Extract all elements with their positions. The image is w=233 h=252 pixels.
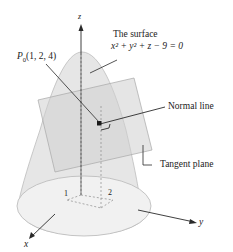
x-axis-label: x bbox=[24, 240, 28, 250]
z-axis-label: z bbox=[78, 13, 81, 21]
surface-label: The surface bbox=[113, 30, 158, 40]
point-p0-marker bbox=[97, 121, 102, 126]
point-coords: (1, 2, 4) bbox=[26, 51, 56, 61]
point-p0-label: P0(1, 2, 4) bbox=[17, 52, 56, 63]
x-tick-label: 1 bbox=[64, 190, 68, 198]
y-axis-label: y bbox=[199, 218, 203, 228]
y-tick-label: 2 bbox=[108, 189, 112, 197]
tangent-plane-label: Tangent plane bbox=[160, 160, 213, 170]
normal-line-label: Normal line bbox=[168, 102, 214, 112]
surface-equation: x² + y² + z − 9 = 0 bbox=[111, 42, 183, 52]
diagram-canvas: z The surface x² + y² + z − 9 = 0 P0(1, … bbox=[0, 0, 233, 252]
